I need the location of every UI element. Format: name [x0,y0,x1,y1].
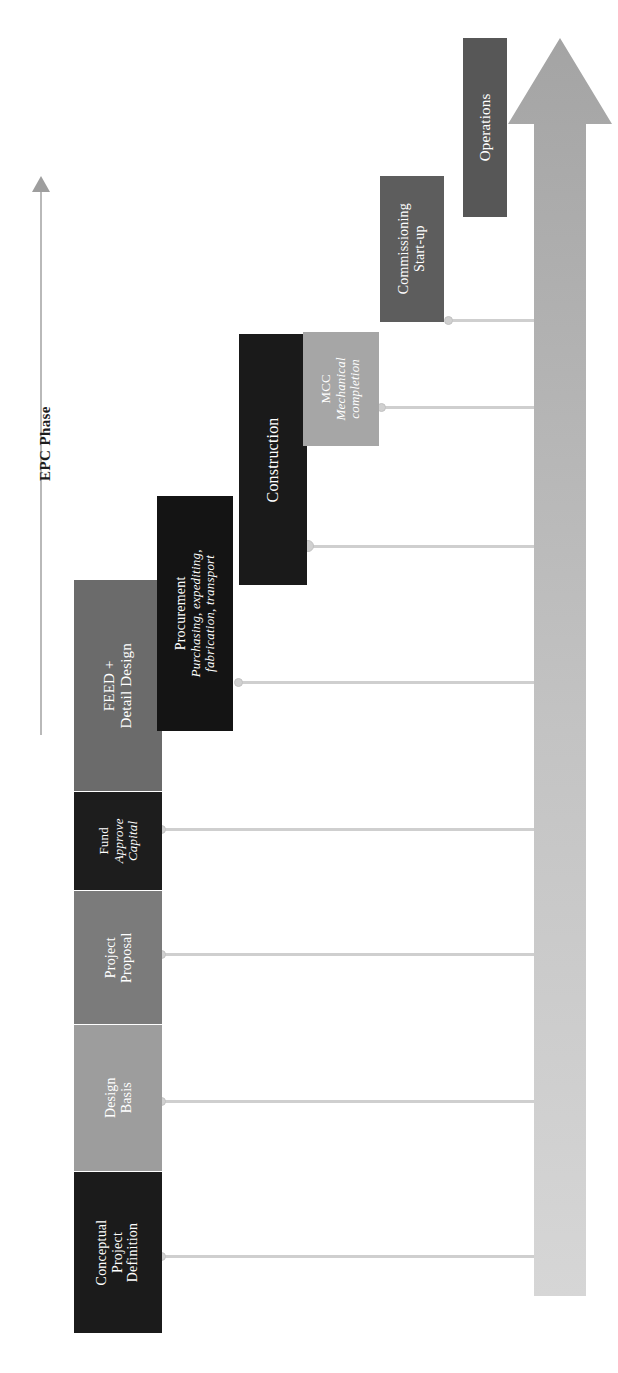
phase-box-design-basis[interactable]: Design Basis [74,1025,162,1171]
connector-line-commissioning [449,319,534,322]
phase-label-construction: Construction [264,417,282,502]
phase-box-mcc-mechanical-completion[interactable]: MCC Mechanical completion [303,332,379,446]
connector-line-design-basis [162,1100,534,1103]
connector-line-project-proposal [162,953,534,956]
phase-box-construction[interactable]: Construction [239,334,307,585]
phase-box-operations[interactable]: Operations [463,38,507,217]
connector-line-conceptual [162,1255,534,1258]
phase-box-conceptual-project-definition[interactable]: Conceptual Project Definition [74,1172,162,1333]
epc-phase-axis-arrowhead [32,176,50,192]
phase-label-fund: Fund Approve Capital [96,819,140,864]
connector-line-construction [309,545,534,548]
phase-box-procurement[interactable]: Procurement Purchasing, expediting, fabr… [157,496,233,731]
phase-box-project-proposal[interactable]: Project Proposal [74,891,162,1024]
connector-line-fund [162,828,534,831]
connector-line-mcc [382,406,534,409]
phase-box-feed-detail-design[interactable]: FEED + Detail Design [74,580,162,791]
phase-label-commissioning: Commissioning Start-up [396,203,427,294]
phase-label-operations: Operations [477,94,494,162]
phase-label-mcc: MCC Mechanical completion [319,357,363,420]
phase-box-commissioning-start-up[interactable]: Commissioning Start-up [380,176,444,322]
phase-box-fund-approve-capital[interactable]: Fund Approve Capital [74,792,162,890]
phase-label-design-basis: Design Basis [102,1078,133,1119]
diagram-canvas: EPC Phase Conceptual Project Definition … [0,0,618,1373]
connector-line-procurement [239,681,534,684]
connector-dot-commissioning [444,316,453,325]
phase-label-feed: FEED + Detail Design [101,643,135,729]
connector-dot-procurement [234,678,243,687]
phase-label-project-proposal: Project Proposal [102,932,133,983]
project-timeline-arrow [508,38,612,1296]
epc-phase-axis-label: EPC Phase [37,394,54,494]
phase-label-conceptual: Conceptual Project Definition [94,1220,141,1286]
phase-label-procurement: Procurement Purchasing, expediting, fabr… [173,550,218,678]
